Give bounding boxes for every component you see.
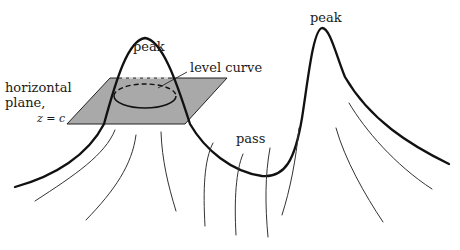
ridge-profile — [15, 28, 449, 187]
slope-line — [235, 154, 243, 235]
plane-label-line1: horizontal — [5, 80, 72, 95]
slope-line — [204, 143, 213, 226]
plane-equation-label: z = c — [36, 112, 65, 125]
left-peak-label: peak — [133, 39, 165, 54]
slope-line — [336, 128, 383, 222]
slope-line — [86, 135, 136, 220]
slope-line — [161, 132, 176, 211]
plane-label-line2: plane, — [5, 95, 45, 110]
horizontal-plane — [67, 78, 227, 124]
slope-line — [35, 130, 115, 201]
slope-line — [266, 148, 270, 237]
terrain-diagram: peak peak level curve horizontal plane, … — [0, 0, 460, 250]
slope-line — [349, 103, 432, 189]
right-peak-label: peak — [310, 10, 342, 25]
level-curve-label: level curve — [190, 60, 262, 75]
diagram-svg: peak peak level curve horizontal plane, … — [0, 0, 460, 250]
pass-label: pass — [236, 131, 265, 146]
